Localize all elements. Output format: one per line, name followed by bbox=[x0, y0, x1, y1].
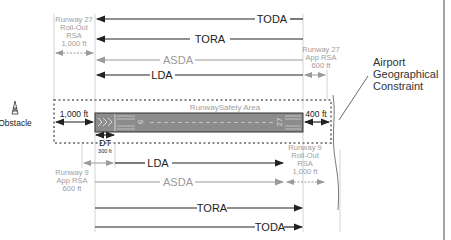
top-lda-arrow: LDA bbox=[97, 69, 303, 81]
left-offset-1000ft: 1,000 ft bbox=[56, 109, 93, 122]
dt-label: DT bbox=[99, 138, 111, 148]
top-toda-label: TODA bbox=[257, 13, 288, 25]
svg-text:1,000 ft: 1,000 ft bbox=[292, 167, 318, 176]
top-lda-label: LDA bbox=[151, 69, 173, 81]
bottom-toda-arrow: TODA bbox=[95, 221, 302, 233]
obstacle-label: Obstacle bbox=[0, 118, 32, 128]
obstacle: Obstacle bbox=[0, 101, 32, 128]
runway: 9 27 bbox=[95, 113, 303, 132]
bottom-lda-arrow: LDA bbox=[115, 157, 283, 169]
obstacle-tower-icon bbox=[12, 101, 18, 114]
rwy27-rollout-rsa: Runway 27 Roll-Out RSA 1,000 ft bbox=[55, 15, 93, 53]
runway-safety-area-label: RunwaySafety Area bbox=[190, 103, 261, 112]
top-tora-label: TORA bbox=[195, 33, 226, 45]
bottom-asda-label: ASDA bbox=[163, 176, 194, 188]
top-tora-arrow: TORA bbox=[97, 33, 303, 45]
right-offset-400ft: 400 ft bbox=[305, 109, 329, 122]
svg-text:Airport: Airport bbox=[373, 56, 405, 68]
runway-number-27: 27 bbox=[275, 117, 284, 126]
constraint-boundary-line bbox=[333, 95, 339, 210]
rwy9-app-rsa: Runway 9 App RSA 600 ft bbox=[55, 163, 113, 193]
top-toda-arrow: TODA bbox=[97, 13, 303, 25]
displaced-threshold: DT 300 ft bbox=[96, 135, 114, 154]
svg-text:600 ft: 600 ft bbox=[312, 61, 332, 70]
top-asda-arrow: ASDA bbox=[97, 54, 303, 66]
rwy27-app-rsa: Runway 27 App RSA 600 ft bbox=[302, 45, 340, 100]
bottom-lda-label: LDA bbox=[147, 157, 169, 169]
runway-number-9: 9 bbox=[136, 120, 145, 125]
bottom-toda-label: TODA bbox=[255, 221, 286, 233]
rwy9-rollout-rsa: Runway 9 Roll-Out RSA 1,000 ft bbox=[287, 143, 324, 182]
svg-text:1,000 ft: 1,000 ft bbox=[60, 109, 89, 119]
airport-geographical-constraint: Airport Geographical Constraint bbox=[333, 56, 438, 210]
svg-text:Geographical: Geographical bbox=[373, 68, 438, 80]
bottom-tora-arrow: TORA bbox=[95, 202, 302, 214]
svg-text:400 ft: 400 ft bbox=[305, 109, 327, 119]
top-asda-label: ASDA bbox=[163, 54, 194, 66]
svg-text:1,000 ft: 1,000 ft bbox=[61, 39, 87, 48]
declared-distances-diagram: TODA TORA ASDA LDA Runway 27 Roll-Out RS… bbox=[0, 0, 451, 240]
bottom-asda-arrow: ASDA bbox=[95, 176, 283, 188]
svg-text:600 ft: 600 ft bbox=[63, 184, 83, 193]
dt-value: 300 ft bbox=[98, 148, 112, 154]
bottom-tora-label: TORA bbox=[197, 202, 228, 214]
svg-text:Constraint: Constraint bbox=[373, 80, 423, 92]
